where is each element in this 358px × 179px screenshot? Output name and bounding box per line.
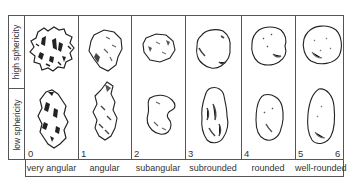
row-label-high-sphericity: high sphericity	[8, 15, 25, 88]
grain-subangular-low-sphericity-icon	[142, 92, 180, 136]
category-label-rounded: rounded	[241, 163, 295, 173]
category-label-very-angular: very angular	[25, 163, 78, 173]
column-divider	[78, 15, 79, 160]
column-divider	[185, 15, 186, 160]
scale-number-4: 4	[244, 148, 249, 159]
column-divider	[295, 15, 296, 160]
column-divider	[241, 15, 242, 160]
category-label-angular: angular	[78, 163, 131, 173]
scale-number-3: 3	[188, 148, 193, 159]
grain-very-angular-low-sphericity-icon	[32, 88, 72, 150]
scale-number-5: 5	[298, 148, 303, 159]
column-divider	[131, 15, 132, 160]
grain-well-rounded-low-sphericity-icon	[305, 86, 337, 148]
scale-number-1: 1	[81, 148, 86, 159]
grain-rounded-high-sphericity-icon	[249, 24, 289, 68]
scale-number-2: 2	[134, 148, 139, 159]
scale-number-6: 6	[335, 148, 340, 159]
grain-angular-low-sphericity-icon	[87, 80, 123, 144]
category-label-subrounded: subrounded	[185, 163, 241, 173]
category-label-subangular: subangular	[131, 163, 185, 173]
grain-angular-high-sphericity-icon	[86, 27, 126, 73]
grain-rounded-low-sphericity-icon	[252, 92, 286, 144]
grain-very-angular-high-sphericity-icon	[28, 24, 76, 74]
grain-subangular-high-sphericity-icon	[140, 30, 178, 66]
category-label-well-rounded: well-rounded	[295, 163, 344, 173]
row-label-low-sphericity: low sphericity	[8, 89, 25, 160]
grain-well-rounded-high-sphericity-icon	[300, 22, 344, 68]
grain-subrounded-high-sphericity-icon	[193, 26, 235, 72]
grain-subrounded-low-sphericity-icon	[197, 84, 231, 146]
